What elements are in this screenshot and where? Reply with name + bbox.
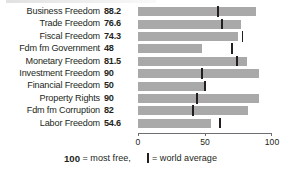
axis-tick [205, 133, 206, 136]
chart-row: Labor Freedom54.6 [0, 118, 281, 130]
legend-most-free-text: = most free, [83, 153, 131, 163]
chart-legend: 100 = most free, = world average [0, 151, 281, 165]
world-average-marker [196, 93, 198, 104]
chart-row: Business Freedom88.2 [0, 6, 281, 18]
x-axis: 050100 [138, 133, 272, 134]
row-value: 88.2 [104, 6, 132, 17]
world-average-marker [242, 31, 244, 42]
row-plot-area [138, 56, 272, 68]
chart-row: Investment Freedom90 [0, 68, 281, 80]
chart-row: Financial Freedom50 [0, 80, 281, 92]
world-average-marker [204, 81, 206, 92]
row-plot-area [138, 105, 272, 117]
value-bar [138, 119, 211, 128]
chart-row: Trade Freedom76.6 [0, 18, 281, 30]
row-plot-area [138, 93, 272, 105]
legend-most-free-number: 100 [64, 153, 80, 164]
row-plot-area [138, 43, 272, 55]
chart-row: Fdm fm Government48 [0, 43, 281, 55]
row-label: Fdm fm Government [19, 43, 100, 54]
row-value: 81.5 [104, 56, 132, 67]
legend-world-average-text: = world average [152, 153, 217, 163]
row-plot-area [138, 18, 272, 30]
row-label: Property Rights [40, 93, 100, 104]
chart-row: Fdm fm Corruption82 [0, 105, 281, 117]
value-bar [138, 69, 259, 78]
chart-row: Monetary Freedom81.5 [0, 56, 281, 68]
row-label: Fdm fm Corruption [27, 105, 100, 116]
row-label: Business Freedom [27, 6, 100, 17]
chart-rows: Business Freedom88.2Trade Freedom76.6Fis… [0, 6, 281, 130]
world-average-marker [231, 43, 233, 54]
value-bar [138, 82, 205, 91]
row-value: 90 [104, 68, 132, 79]
row-label: Fiscal Freedom [39, 31, 100, 42]
world-average-marker-icon [147, 153, 149, 163]
world-average-marker [236, 56, 238, 67]
row-plot-area [138, 68, 272, 80]
freedom-index-bar-chart: Business Freedom88.2Trade Freedom76.6Fis… [0, 0, 281, 174]
row-plot-area [138, 80, 272, 92]
value-bar [138, 44, 202, 53]
value-bar [138, 94, 259, 103]
row-value: 54.6 [104, 118, 132, 129]
world-average-marker [217, 6, 219, 17]
axis-tick-label: 50 [200, 137, 210, 147]
world-average-marker [192, 105, 194, 116]
chart-row: Fiscal Freedom74.3 [0, 31, 281, 43]
axis-tick-label: 0 [136, 137, 141, 147]
row-plot-area [138, 31, 272, 43]
value-bar [138, 20, 241, 29]
value-bar [138, 7, 256, 16]
row-value: 74.3 [104, 31, 132, 42]
row-value: 48 [104, 43, 132, 54]
chart-row: Property Rights90 [0, 93, 281, 105]
world-average-marker [221, 19, 223, 30]
row-label: Labor Freedom [40, 118, 100, 129]
axis-tick [138, 133, 139, 136]
row-plot-area [138, 118, 272, 130]
row-value: 76.6 [104, 18, 132, 29]
world-average-marker [219, 118, 221, 129]
axis-tick [271, 133, 272, 136]
row-label: Trade Freedom [40, 18, 100, 29]
row-value: 50 [104, 80, 132, 91]
world-average-marker [201, 68, 203, 79]
row-plot-area [138, 6, 272, 18]
value-bar [138, 57, 247, 66]
axis-tick-label: 100 [265, 137, 279, 147]
row-label: Financial Freedom [27, 80, 100, 91]
row-value: 82 [104, 105, 132, 116]
value-bar [138, 32, 238, 41]
row-value: 90 [104, 93, 132, 104]
row-label: Monetary Freedom [26, 56, 100, 67]
row-label: Investment Freedom [19, 68, 100, 79]
cropped-title-remnant [6, 0, 156, 3]
